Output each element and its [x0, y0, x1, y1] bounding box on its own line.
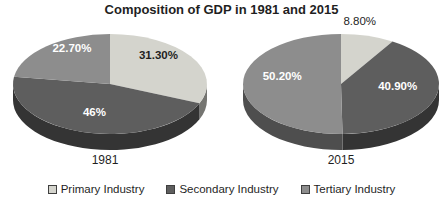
legend-label-primary-industry: Primary Industry: [61, 183, 145, 195]
legend-label-tertiary-industry: Tertiary Industry: [314, 183, 396, 195]
gdp-composition-chart: Composition of GDP in 1981 and 2015 31.3…: [0, 0, 443, 211]
legend-item-secondary-industry: Secondary Industry: [166, 183, 278, 195]
data-label-1981-tertiary-industry: 22.70%: [52, 42, 91, 54]
data-label-2015-secondary-industry: 40.90%: [378, 80, 417, 92]
data-label-1981-secondary-industry: 46%: [83, 106, 106, 118]
legend-label-secondary-industry: Secondary Industry: [179, 183, 278, 195]
pie-caption-2015: 2015: [281, 153, 401, 167]
data-label-2015-tertiary-industry: 50.20%: [263, 70, 302, 82]
data-label-2015-primary-industry: 8.80%: [343, 15, 376, 27]
secondary-industry-swatch-icon: [166, 185, 175, 194]
data-label-1981-primary-industry: 31.30%: [139, 49, 178, 61]
legend-item-tertiary-industry: Tertiary Industry: [301, 183, 396, 195]
tertiary-industry-swatch-icon: [301, 185, 310, 194]
pie-caption-1981: 1981: [45, 153, 165, 167]
primary-industry-swatch-icon: [48, 185, 57, 194]
chart-legend: Primary Industry Secondary Industry Tert…: [0, 183, 443, 195]
legend-item-primary-industry: Primary Industry: [48, 183, 145, 195]
